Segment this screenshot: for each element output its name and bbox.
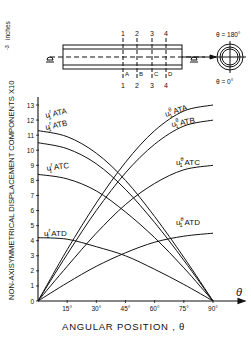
section-A: A: [125, 71, 129, 77]
x-tick-label: 45°: [121, 305, 131, 312]
svg-text:uθ1ATD: uθ1ATD: [176, 216, 200, 228]
section-1-bottom: 1: [121, 82, 125, 89]
series-line-theta-atb: [38, 120, 213, 301]
y-tick-label: 12: [27, 117, 35, 124]
y-tick-label: 10: [27, 147, 35, 154]
x-ticks: 15°30°45°60°75°90°: [62, 300, 218, 312]
y-tick-label: 9: [30, 162, 34, 169]
y-tick-label: 6: [30, 207, 34, 214]
y-axis-label-exp: -3: [4, 45, 10, 50]
label-ur-atd: ur1ATD: [44, 227, 67, 239]
section-C: C: [154, 71, 159, 77]
y-axis-label-main: NON-AXISYMMETRICAL DISPLACEMENT COMPONEN…: [7, 81, 16, 300]
theta-0-label: θ = 0°: [216, 78, 234, 85]
y-ticks: 012345678910111213: [27, 102, 39, 305]
section-3-bottom: 3: [150, 82, 154, 89]
x-tick-label: 90°: [208, 305, 218, 312]
x-tick-label: 60°: [150, 305, 160, 312]
y-tick-label: 0: [30, 298, 34, 305]
svg-text:ur1ATC: ur1ATC: [46, 159, 70, 174]
x-tick-label: 30°: [91, 305, 101, 312]
y-axis-label-unit: inches: [4, 20, 11, 40]
section-2-top: 2: [135, 30, 139, 37]
y-tick-label: 8: [30, 177, 34, 184]
y-tick-label: 11: [27, 132, 34, 139]
section-D: D: [168, 71, 173, 77]
section-4-bottom: 4: [164, 82, 168, 89]
section-2-bottom: 2: [135, 82, 139, 89]
curve-labels: ur1ATA ur1ATB ur1ATC ur1ATD uθ1ATA uθ1AT…: [44, 101, 200, 239]
displacement-chart: 1 2 3 4 A B C D 1 2 3 4 θ = 180° θ = 0° …: [0, 0, 251, 339]
x-tick-label: 15°: [62, 305, 72, 312]
y-tick-label: 4: [30, 237, 34, 244]
y-tick-label: 1: [30, 282, 34, 289]
svg-text:uθ1ATC: uθ1ATC: [176, 156, 200, 168]
svg-text:ur1ATD: ur1ATD: [44, 227, 67, 239]
y-tick-label: 13: [27, 102, 35, 109]
y-tick-label: 3: [30, 252, 34, 259]
section-3-top: 3: [150, 30, 154, 37]
x-tick-label: 75°: [179, 305, 189, 312]
label-ur-atc: ur1ATC: [46, 159, 70, 174]
y-axis-label: NON-AXISYMMETRICAL DISPLACEMENT COMPONEN…: [4, 20, 16, 300]
section-1-top: 1: [121, 30, 125, 37]
section-B: B: [139, 71, 143, 77]
beam-inset-diagram: [46, 38, 246, 80]
x-axis-label: ANGULAR POSITION , θ: [62, 321, 185, 332]
series-line-r-ata: [38, 131, 213, 301]
y-tick-label: 5: [30, 222, 34, 229]
x-axis-arrow-icon: [238, 299, 245, 304]
y-tick-label: 7: [30, 192, 34, 199]
y-tick-label: 2: [30, 267, 34, 274]
label-utheta-atc: uθ1ATC: [176, 156, 200, 168]
series-curves: [38, 105, 213, 301]
section-4-top: 4: [164, 30, 168, 37]
theta-180-label: θ = 180°: [216, 31, 241, 38]
series-line-theta-atd: [38, 233, 213, 301]
x-axis-theta-symbol: θ: [236, 286, 242, 298]
label-utheta-atd: uθ1ATD: [176, 216, 200, 228]
